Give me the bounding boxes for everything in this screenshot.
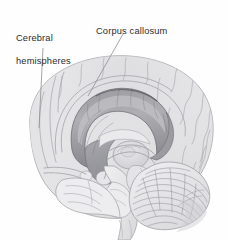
label-corpus-callosum-line1: Corpus callosum <box>96 26 168 37</box>
label-cerebral-hemispheres-line2: hemispheres <box>16 56 71 67</box>
cerebellum <box>129 162 210 232</box>
label-cerebral-hemispheres: Cerebral hemispheres <box>16 22 71 78</box>
label-cerebral-hemispheres-line1: Cerebral <box>16 33 71 44</box>
label-corpus-callosum: Corpus callosum <box>96 15 168 49</box>
brain-anatomy-figure: Cerebral hemispheres Corpus callosum <box>0 0 228 240</box>
